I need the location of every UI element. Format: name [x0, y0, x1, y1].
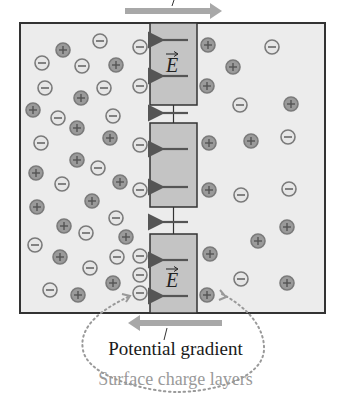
negative-charge-icon — [35, 56, 49, 70]
negative-charge-icon — [234, 188, 248, 202]
positive-charge-icon — [284, 97, 298, 111]
negative-charge-icon — [79, 226, 93, 240]
positive-charge-icon — [74, 91, 88, 105]
negative-charge-icon — [97, 81, 111, 95]
positive-charge-icon — [103, 131, 117, 145]
negative-charge-icon — [109, 211, 123, 225]
negative-charge-icon — [93, 34, 107, 48]
negative-charge-icon — [265, 40, 279, 54]
negative-charge-icon — [282, 182, 296, 196]
positive-charge-icon — [57, 219, 71, 233]
bottom-gradient-arrow-icon-head — [128, 315, 140, 331]
positive-charge-icon — [70, 153, 84, 167]
negative-charge-icon — [133, 183, 147, 197]
negative-charge-icon — [133, 286, 147, 300]
potential-gradient-label: Potential gradient — [0, 338, 351, 360]
negative-charge-icon — [91, 161, 105, 175]
top-gradient-arrow-icon-head — [210, 3, 222, 19]
negative-charge-icon — [133, 138, 147, 152]
positive-charge-icon — [226, 60, 240, 74]
negative-charge-icon — [133, 40, 147, 54]
negative-charge-icon — [133, 268, 147, 282]
negative-charge-icon — [281, 130, 295, 144]
positive-charge-icon — [244, 134, 258, 148]
positive-charge-icon — [280, 276, 294, 290]
leader-line — [172, 0, 174, 6]
negative-charge-icon — [110, 250, 124, 264]
positive-charge-icon — [26, 103, 40, 117]
positive-charge-icon — [251, 234, 265, 248]
negative-charge-icon — [51, 111, 65, 125]
negative-charge-icon — [133, 79, 147, 93]
negative-charge-icon — [133, 249, 147, 263]
bottom-gradient-arrow-icon-shaft — [140, 320, 222, 326]
negative-charge-icon — [43, 283, 57, 297]
field-segment — [150, 123, 197, 207]
surface-charge-layers-label: Surface charge layers — [0, 369, 351, 390]
positive-charge-icon — [113, 175, 127, 189]
positive-charge-icon — [30, 200, 44, 214]
positive-charge-icon — [29, 166, 43, 180]
negative-charge-icon — [75, 59, 89, 73]
field-symbol: E — [165, 54, 178, 76]
positive-charge-icon — [280, 220, 294, 234]
negative-charge-icon — [38, 81, 52, 95]
negative-charge-icon — [34, 136, 48, 150]
negative-charge-icon — [55, 177, 69, 191]
positive-charge-icon — [71, 288, 85, 302]
positive-charge-icon — [203, 247, 217, 261]
positive-charge-icon — [56, 43, 70, 57]
positive-charge-icon — [85, 194, 99, 208]
positive-charge-icon — [202, 136, 216, 150]
positive-charge-icon — [109, 58, 123, 72]
negative-charge-icon — [28, 238, 42, 252]
positive-charge-icon — [200, 288, 214, 302]
field-symbol: E — [165, 269, 178, 291]
negative-charge-icon — [83, 261, 97, 275]
positive-charge-icon — [201, 38, 215, 52]
positive-charge-icon — [106, 276, 120, 290]
positive-charge-icon — [119, 230, 133, 244]
positive-charge-icon — [202, 183, 216, 197]
positive-charge-icon — [70, 121, 84, 135]
positive-charge-icon — [200, 79, 214, 93]
negative-charge-icon — [234, 272, 248, 286]
negative-charge-icon — [233, 98, 247, 112]
positive-charge-icon — [53, 250, 67, 264]
top-gradient-arrow-icon-shaft — [125, 8, 210, 14]
negative-charge-icon — [106, 109, 120, 123]
surface-charge-diagram: EE — [0, 0, 351, 393]
